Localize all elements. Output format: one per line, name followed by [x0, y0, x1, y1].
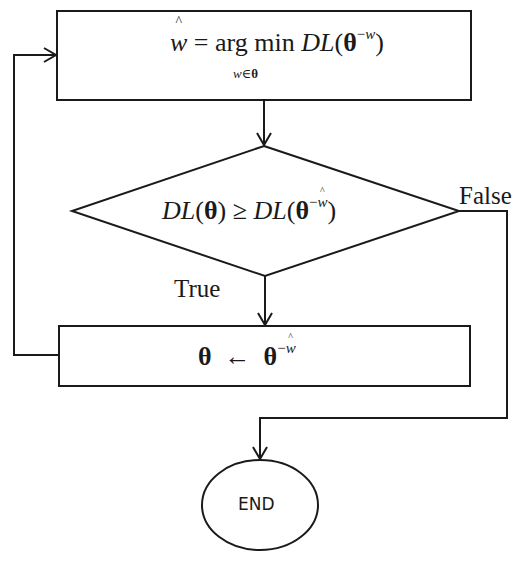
subscript-theta: θ [251, 66, 258, 81]
paren-close-left: ) [218, 196, 227, 225]
true-edge-label: True [174, 275, 220, 303]
theta-symbol: θ [343, 28, 357, 57]
theta-left: θ [204, 196, 218, 225]
argmin-formula: w = arg min DL(θ−w) [170, 26, 384, 58]
end-label: END [238, 494, 275, 514]
equals-sign: = [194, 28, 209, 57]
decision-formula: DL(θ) ≥ DL(θ−w) [162, 194, 336, 226]
subscript-element-of: ∈ [242, 66, 252, 81]
theta-lhs: θ [198, 342, 212, 371]
paren-close-right: ) [327, 196, 336, 225]
sup-minus: − [277, 340, 285, 356]
sup-w-hat: w [286, 340, 296, 357]
false-edge-label: False [459, 182, 512, 210]
update-formula: θ ← θ−w [198, 340, 296, 372]
w-hat-symbol: w [170, 28, 187, 58]
flowchart-canvas [0, 0, 526, 564]
argmin-subscript: w∈θ [233, 66, 258, 82]
theta-rhs: θ [264, 342, 278, 371]
dl-function-right: DL [253, 196, 286, 225]
geq-relation: ≥ [233, 196, 247, 225]
sup-minus: − [309, 194, 317, 210]
assign-arrow: ← [225, 342, 251, 371]
sup-w: w [365, 26, 375, 42]
argmin-operator: arg min [215, 28, 295, 57]
dl-function: DL [301, 28, 334, 57]
subscript-w: w [233, 66, 242, 81]
paren-open: ( [334, 28, 343, 57]
theta-right: θ [295, 196, 309, 225]
edge-loop-back [14, 55, 59, 355]
sup-w-hat: w [317, 194, 327, 211]
paren-open-left: ( [195, 196, 204, 225]
sup-minus: − [357, 26, 365, 42]
dl-function-left: DL [162, 196, 195, 225]
paren-close: ) [375, 28, 384, 57]
